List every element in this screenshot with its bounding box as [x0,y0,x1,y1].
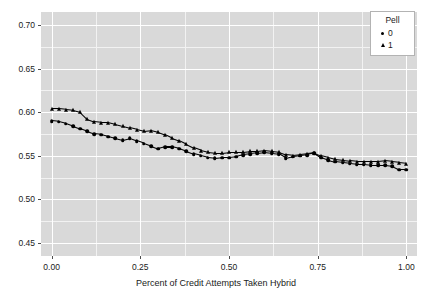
data-point-triangle [50,107,54,111]
data-point-triangle [362,160,366,164]
data-point-circle [213,157,217,161]
data-point-triangle [234,150,238,154]
y-axis-tick-label: 0.55 [2,151,35,161]
data-point-triangle [71,108,75,112]
data-point-circle [234,155,238,159]
legend-title: Pell [375,15,410,25]
x-axis-tick-mark [229,256,230,259]
data-point-circle [142,142,146,146]
x-axis-tick-label: 0.00 [32,262,72,272]
data-point-circle [192,152,196,156]
data-point-circle [121,138,125,142]
legend-item-label: 0 [388,28,393,38]
data-point-triangle [277,150,281,154]
y-axis-tick-mark [38,156,41,157]
data-point-circle [390,164,394,168]
x-axis-tick-mark [140,256,141,259]
data-point-triangle [369,160,373,164]
data-point-triangle [333,157,337,161]
data-point-triangle [262,148,266,152]
data-point-circle [149,144,153,148]
data-point-circle [170,145,174,149]
data-point-triangle [206,150,210,154]
data-point-circle [156,147,160,151]
data-point-triangle [291,154,295,158]
y-axis-tick-mark [38,199,41,200]
scatter-chart: 0.450.500.550.600.650.70 0.000.250.500.7… [0,0,432,304]
data-point-circle [135,139,139,143]
data-point-triangle [128,126,132,130]
data-point-triangle [298,153,302,157]
data-point-circle [178,147,182,151]
x-axis-tick-label: 0.25 [120,262,160,272]
data-point-triangle [404,161,408,165]
data-point-triangle [85,117,89,121]
data-point-triangle [149,128,153,132]
data-point-triangle [142,129,146,133]
data-point-triangle [184,142,188,146]
x-axis-tick-label: 0.75 [298,262,338,272]
data-point-triangle [220,151,224,155]
x-axis-tick-mark [52,256,53,259]
gridline-major-vertical [318,12,319,256]
data-point-triangle [376,160,380,164]
legend-item-0[interactable]: 0 [375,27,410,39]
x-axis-title: Percent of Credit Attempts Taken Hybrid [0,278,432,288]
data-point-triangle [163,133,167,137]
data-point-triangle [177,139,181,143]
data-point-triangle [92,120,96,124]
data-point-triangle [156,130,160,134]
data-point-triangle [64,107,68,111]
triangle-marker-icon [377,43,388,47]
data-point-circle [376,164,380,168]
data-point-circle [206,156,210,160]
data-point-triangle [135,127,139,131]
data-point-circle [50,119,54,123]
data-point-circle [185,150,189,154]
data-point-circle [100,133,104,137]
y-axis-tick-label: 0.45 [2,238,35,248]
legend-item-1[interactable]: 1 [375,39,410,51]
gridline-major-horizontal [41,243,417,244]
data-point-circle [227,156,231,160]
data-point-triangle [192,146,196,150]
data-point-triangle [390,160,394,164]
data-point-triangle [99,120,103,124]
data-point-circle [64,122,68,126]
data-point-circle [71,124,75,128]
y-axis-tick-mark [38,25,41,26]
gridline-major-horizontal [41,199,417,200]
data-point-triangle [270,149,274,153]
data-point-triangle [397,161,401,165]
data-point-circle [199,154,203,158]
data-point-triangle [241,150,245,154]
y-axis-tick-label: 0.65 [2,64,35,74]
data-point-triangle [305,152,309,156]
gridline-major-vertical [229,12,230,256]
data-point-circle [57,120,61,124]
data-point-circle [85,130,89,134]
gridline-major-horizontal [41,69,417,70]
legend-item-label: 1 [388,40,393,50]
y-axis-tick-label: 0.60 [2,107,35,117]
data-point-triangle [319,154,323,158]
x-axis-tick-label: 1.00 [386,262,426,272]
y-axis-tick-mark [38,112,41,113]
data-point-circle [405,168,409,172]
data-point-triangle [341,158,345,162]
data-point-circle [369,164,373,168]
data-point-triangle [284,153,288,157]
data-point-triangle [121,124,125,128]
y-axis-tick-mark [38,69,41,70]
circle-marker-icon [377,32,388,35]
data-point-triangle [170,136,174,140]
data-point-circle [107,135,111,139]
y-axis-tick-label: 0.50 [2,194,35,204]
gridline-major-horizontal [41,25,417,26]
x-axis-tick-mark [318,256,319,259]
data-point-triangle [106,120,110,124]
data-point-triangle [326,155,330,159]
gridline-major-vertical [52,12,53,256]
gridline-major-horizontal [41,112,417,113]
data-point-circle [284,157,288,161]
